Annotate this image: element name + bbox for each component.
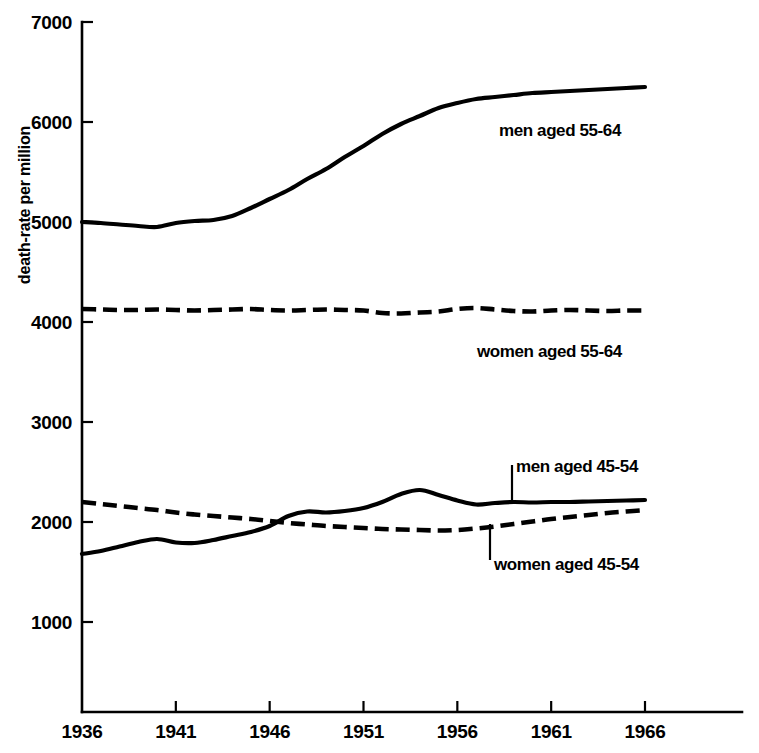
series-label-men-45-54: men aged 45-54 <box>516 457 639 476</box>
x-tick-label-1956: 1956 <box>437 721 478 742</box>
x-tick-label-1961: 1961 <box>531 721 573 742</box>
y-tick-label-3000: 3000 <box>31 412 72 433</box>
y-tick-label-1000: 1000 <box>31 612 72 633</box>
x-tick-label-1966: 1966 <box>624 721 665 742</box>
y-tick-label-7000: 7000 <box>31 12 72 33</box>
y-axis-label: death-rate per million <box>16 126 33 284</box>
x-tick-label-1951: 1951 <box>343 721 385 742</box>
series-label-women-55-64: women aged 55-64 <box>476 342 623 361</box>
x-tick-label-1936: 1936 <box>61 721 102 742</box>
y-tick-label-5000: 5000 <box>31 212 72 233</box>
y-tick-label-4000: 4000 <box>31 312 72 333</box>
y-tick-label-6000: 6000 <box>31 112 72 133</box>
series-label-women-45-54: women aged 45-54 <box>493 555 640 574</box>
line-chart: death-rate per million 10002000300040005… <box>0 0 759 753</box>
x-tick-label-1941: 1941 <box>155 721 197 742</box>
chart-background <box>0 0 759 753</box>
series-label-men-55-64: men aged 55-64 <box>499 121 622 140</box>
chart-container: death-rate per million 10002000300040005… <box>0 0 759 753</box>
x-tick-label-1946: 1946 <box>249 721 290 742</box>
y-tick-label-2000: 2000 <box>31 512 72 533</box>
